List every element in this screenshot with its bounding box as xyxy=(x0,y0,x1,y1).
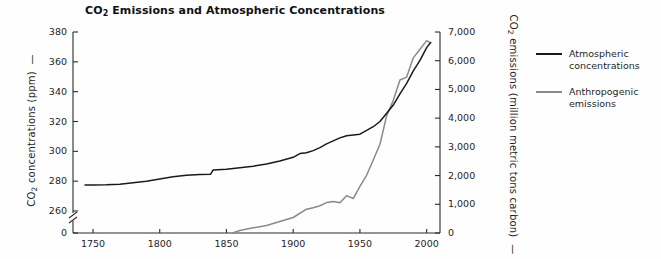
left-tick-label-280: 280 xyxy=(33,176,67,186)
left-tick-label-320: 320 xyxy=(33,117,67,127)
right-tick-label-7000: 7,000 xyxy=(448,27,488,37)
x-tick-label-2000: 2000 xyxy=(407,239,447,249)
right-tick-label-0: 0 xyxy=(448,228,488,238)
legend-item-label: Anthropogenicemissions xyxy=(569,86,638,110)
chart-figure: CO2 Emissions and Atmospheric Concentrat… xyxy=(0,0,661,259)
series-anthropogenic-emissions xyxy=(233,41,429,233)
right-tick-label-3000: 3,000 xyxy=(448,142,488,152)
right-axis-ticks xyxy=(435,32,440,233)
legend-line-swatch xyxy=(536,91,562,93)
x-tick-label-1800: 1800 xyxy=(140,239,180,249)
x-tick-label-1750: 1750 xyxy=(73,239,113,249)
left-axis-ticks xyxy=(73,32,78,233)
left-tick-label-380: 380 xyxy=(33,27,67,37)
plot-area xyxy=(0,0,661,259)
right-tick-label-5000: 5,000 xyxy=(448,84,488,94)
right-tick-label-4000: 4,000 xyxy=(448,113,488,123)
x-axis-ticks xyxy=(93,229,427,233)
left-tick-label-0: 0 xyxy=(33,228,67,238)
legend-item-atmospheric-concentrations[interactable]: Atmosphericconcentrations xyxy=(536,48,658,72)
left-tick-label-360: 360 xyxy=(33,57,67,67)
left-tick-label-300: 300 xyxy=(33,146,67,156)
right-axis-title: CO2 emissions (million metric tons carbo… xyxy=(508,15,519,245)
left-axis-title: CO2 concentrations (ppm) — xyxy=(26,31,37,231)
right-tick-label-6000: 6,000 xyxy=(448,56,488,66)
left-tick-label-260: 260 xyxy=(33,206,67,216)
x-tick-label-1950: 1950 xyxy=(340,239,380,249)
left-tick-label-340: 340 xyxy=(33,87,67,97)
right-tick-label-1000: 1,000 xyxy=(448,199,488,209)
series-atmospheric-concentrations xyxy=(85,42,431,184)
legend-item-anthropogenic-emissions[interactable]: Anthropogenicemissions xyxy=(536,86,658,110)
legend-line-swatch xyxy=(536,53,562,55)
right-tick-label-2000: 2,000 xyxy=(448,171,488,181)
x-tick-label-1900: 1900 xyxy=(273,239,313,249)
chart-legend: AtmosphericconcentrationsAnthropogenicem… xyxy=(536,48,658,124)
x-tick-label-1850: 1850 xyxy=(206,239,246,249)
legend-item-label: Atmosphericconcentrations xyxy=(569,48,640,72)
